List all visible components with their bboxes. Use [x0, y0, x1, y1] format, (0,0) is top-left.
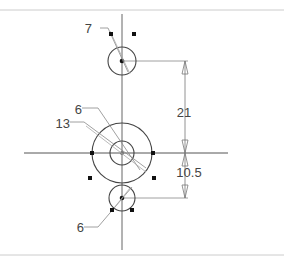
- grip[interactable]: [130, 208, 134, 212]
- leader-13[interactable]: [70, 122, 146, 172]
- grip[interactable]: [88, 176, 92, 180]
- label-7[interactable]: 7: [85, 21, 92, 36]
- dimension-label-21[interactable]: 21: [177, 105, 191, 120]
- cad-drawing-canvas[interactable]: 7 6 13 6 21 10.5: [0, 0, 284, 265]
- grip[interactable]: [152, 176, 156, 180]
- grip[interactable]: [110, 208, 114, 212]
- label-6-top[interactable]: 6: [75, 102, 82, 117]
- label-6-bottom[interactable]: 6: [77, 220, 84, 235]
- leader-7[interactable]: [100, 28, 130, 74]
- grip[interactable]: [90, 151, 94, 155]
- grip[interactable]: [109, 32, 113, 36]
- grip[interactable]: [151, 151, 155, 155]
- dimension-label-10-5[interactable]: 10.5: [176, 165, 201, 180]
- label-13[interactable]: 13: [56, 116, 70, 131]
- grip[interactable]: [132, 32, 136, 36]
- leader-6-bottom[interactable]: [84, 187, 132, 227]
